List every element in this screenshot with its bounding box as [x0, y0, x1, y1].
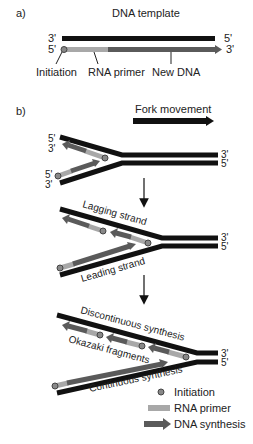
new-dna-bar: [108, 47, 216, 52]
legend-synthesis-label: DNA synthesis: [174, 418, 246, 430]
synthesis-arrowhead: [215, 45, 222, 54]
fork-movement-arrowhead: [206, 116, 214, 126]
legend: Initiation RNA primer DNA synthesis: [144, 386, 246, 430]
annotation-initiation: Initiation: [36, 66, 77, 78]
legend-initiation-label: Initiation: [174, 386, 215, 398]
new-3-prime: 3': [226, 43, 234, 55]
legend-initiation-icon: [158, 389, 164, 395]
svg-text:5': 5': [221, 357, 229, 368]
rna-primer-bar: [63, 47, 109, 52]
annotation-rna-primer: RNA primer: [88, 66, 145, 78]
dna-replication-diagram: a) DNA template 3' 5' 5' 3' Initiation R…: [0, 0, 253, 444]
template-strand: [62, 36, 215, 41]
panel-b-label: b): [16, 105, 26, 117]
legend-primer-label: RNA primer: [174, 402, 231, 414]
panel-a-title: DNA template: [112, 7, 180, 19]
svg-text:3': 3': [48, 143, 56, 154]
fork-stage-1: 5' 3' 5' 3' 3' 5': [45, 133, 229, 190]
fork-stage-3: Discontinuous synthesis Okazaki fragment…: [52, 304, 229, 394]
fork-movement-bar: [133, 118, 207, 124]
fork-stage-2: Lagging strand Leading strand 3' 5': [57, 198, 229, 284]
svg-text:5': 5': [221, 158, 229, 169]
legend-primer-icon: [148, 405, 170, 411]
panel-b: b) Fork movement 5' 3' 5' 3' 3' 5': [16, 103, 229, 394]
initiation-icon: [61, 47, 67, 53]
legend-synthesis-icon: [144, 421, 164, 427]
panel-a-label: a): [16, 7, 26, 19]
panel-a: a) DNA template 3' 5' 5' 3' Initiation R…: [16, 7, 234, 78]
svg-text:5': 5': [221, 241, 229, 252]
svg-text:3': 3': [45, 179, 53, 190]
fork-movement-label: Fork movement: [135, 103, 211, 115]
annotation-new-dna: New DNA: [152, 66, 201, 78]
new-5-prime: 5': [48, 43, 56, 55]
